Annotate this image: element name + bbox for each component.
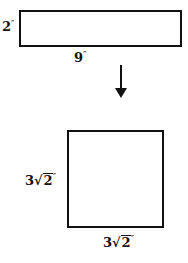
rectangle-height-label: 2″: [2, 20, 14, 33]
square-side-label: 3√2″: [25, 173, 56, 187]
square-3root2: [67, 130, 164, 228]
rectangle-width-label: 9″: [74, 51, 86, 64]
down-arrow-icon: [120, 65, 122, 89]
square-bottom-label: 3√2″: [103, 235, 134, 249]
rectangle-2x9: [19, 10, 182, 47]
arrow-head-icon: [115, 88, 127, 98]
